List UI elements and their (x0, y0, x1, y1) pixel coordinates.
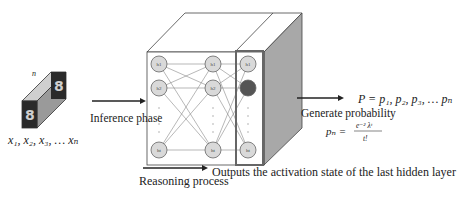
reasoning-arrow-icon (143, 165, 208, 171)
svg-text:ht: ht (211, 148, 216, 153)
svg-text:h1: h1 (157, 62, 163, 67)
svg-text:h1: h1 (246, 62, 252, 67)
diagram-canvas: 8 8 (0, 0, 464, 198)
inference-phase-label: Inference phase (90, 111, 162, 125)
svg-text:h2: h2 (211, 86, 217, 91)
output-caption: Outputs the activation state of the last… (212, 165, 456, 179)
output-arrow-icon (297, 95, 344, 101)
svg-text:h2: h2 (157, 86, 163, 91)
inference-arrow-icon (92, 98, 146, 104)
generate-probability-label: Generate probability (301, 106, 396, 120)
svg-text:ht: ht (157, 148, 162, 153)
svg-text:8: 8 (54, 78, 64, 94)
probability-set: P = p₁, p₂, p₃, … pₙ (358, 92, 452, 106)
network-box (147, 13, 302, 165)
input-tensor-icon: 8 8 (22, 72, 66, 128)
formula-denominator: t! (363, 132, 368, 146)
formula-lhs: pₙ = (326, 124, 346, 138)
formula-numerator: e⁻² λᵗ (356, 119, 372, 133)
svg-text:ht: ht (246, 148, 251, 153)
svg-text:8: 8 (25, 107, 35, 123)
depth-label: n (32, 67, 36, 81)
input-sequence-label: x₁, x₂, x₃, … xₙ (8, 133, 78, 147)
svg-text:h1: h1 (211, 62, 217, 67)
